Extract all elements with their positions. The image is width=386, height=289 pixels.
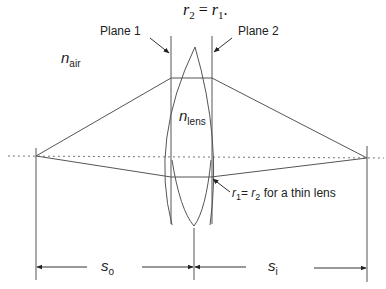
object-distance-label: so: [101, 257, 114, 277]
eq-terminator: .: [224, 1, 228, 18]
lens-bottom: [172, 160, 211, 226]
thin-lens-note: r1= r2 for a thin lens: [232, 186, 336, 202]
n-air-label: nair: [61, 49, 80, 69]
plane-1-arrow: [150, 38, 169, 53]
plane-1-label: Plane 1: [100, 24, 141, 38]
lower-ray: [36, 156, 367, 177]
thin-lens-arrow: [213, 179, 230, 192]
plane-2-label: Plane 2: [238, 24, 279, 38]
image-distance-label: si: [268, 257, 278, 277]
equation: r2 = r1.: [183, 1, 228, 21]
thin-lens-diagram: [0, 0, 386, 289]
optical-axis: [8, 156, 384, 158]
lens-shape: [165, 47, 214, 225]
plane-2-arrow: [214, 38, 232, 52]
eq-operator: =: [195, 1, 212, 18]
n-lens-label: nlens: [179, 107, 206, 127]
